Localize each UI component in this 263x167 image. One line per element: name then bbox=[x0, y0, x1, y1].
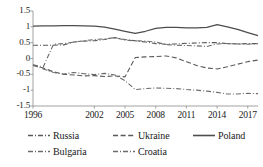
legend-item-label: Poland bbox=[218, 130, 245, 141]
legend-item-poland[interactable]: Poland bbox=[193, 129, 245, 142]
y-axis-tick-label: 1 bbox=[4, 22, 30, 31]
legend-item-label: Russia bbox=[53, 130, 79, 141]
legend-item-bulgaria[interactable]: Bulgaria bbox=[28, 145, 87, 158]
x-axis-tick-label: 2005 bbox=[108, 110, 142, 120]
y-axis-tick-label: 1.5 bbox=[4, 6, 30, 15]
x-axis-tick-label: 2002 bbox=[77, 110, 111, 120]
legend-line-swatch bbox=[113, 131, 135, 140]
plot-area bbox=[0, 0, 263, 112]
y-axis-tick-label: -1 bbox=[4, 85, 30, 94]
series-line-ukraine bbox=[33, 56, 258, 77]
line-chart: 1.510.50-0.5-1-1.5 199620022005200820112… bbox=[0, 0, 263, 167]
legend-line-swatch bbox=[193, 131, 215, 140]
y-axis-tick-label: 0 bbox=[4, 54, 30, 63]
plot-svg bbox=[0, 0, 263, 112]
x-axis-tick-label: 2014 bbox=[200, 110, 234, 120]
series-lines bbox=[33, 25, 258, 94]
legend-line-swatch bbox=[28, 147, 50, 156]
legend-line-swatch bbox=[113, 147, 135, 156]
legend-item-russia[interactable]: Russia bbox=[28, 129, 79, 142]
legend-item-croatia[interactable]: Croatia bbox=[113, 145, 167, 158]
legend-item-label: Bulgaria bbox=[53, 146, 87, 157]
x-axis-tick-label: 1996 bbox=[16, 110, 50, 120]
y-axis-tick-label: -0.5 bbox=[4, 69, 30, 78]
x-axis-tick-label: 2017 bbox=[231, 110, 263, 120]
legend-item-label: Ukraine bbox=[138, 130, 170, 141]
legend-line-swatch bbox=[28, 131, 50, 140]
x-axis-ticks: 1996200220052008201120142017 bbox=[0, 106, 263, 124]
x-axis-tick-label: 2008 bbox=[139, 110, 173, 120]
x-axis-tick-label: 2011 bbox=[169, 110, 203, 120]
legend-item-ukraine[interactable]: Ukraine bbox=[113, 129, 170, 142]
chart-legend: RussiaUkrainePolandBulgariaCroatia bbox=[0, 128, 263, 167]
y-axis-ticks: 1.510.50-0.5-1-1.5 bbox=[0, 0, 30, 112]
y-axis-tick-label: 0.5 bbox=[4, 38, 30, 47]
series-line-poland bbox=[33, 25, 258, 36]
series-line-croatia bbox=[33, 65, 258, 94]
legend-item-label: Croatia bbox=[138, 146, 167, 157]
